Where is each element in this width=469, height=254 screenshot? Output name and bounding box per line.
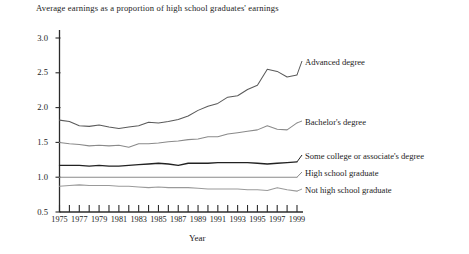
y-tick-label: 2.5 xyxy=(22,67,48,77)
leader-line-3 xyxy=(297,172,302,177)
series-line-1 xyxy=(60,123,298,147)
series-label-2: Some college or associate's degree xyxy=(305,151,424,161)
leader-line-1 xyxy=(297,121,302,123)
series-line-4 xyxy=(60,185,298,191)
x-axis-caption: Year xyxy=(189,233,206,243)
y-tick-label: 1.5 xyxy=(22,137,48,147)
y-tick-label: 1.0 xyxy=(22,172,48,182)
y-tick-label: 2.0 xyxy=(22,102,48,112)
chart-figure: Average earnings as a proportion of high… xyxy=(0,0,469,254)
y-tick-label: 3.0 xyxy=(22,33,48,43)
series-label-1: Bachelor's degree xyxy=(305,117,366,127)
x-tick-label: 1999 xyxy=(282,215,312,224)
series-label-3: High school graduate xyxy=(305,168,379,178)
leader-line-2 xyxy=(297,155,302,162)
series-line-0 xyxy=(60,69,298,128)
leader-line-0 xyxy=(297,61,302,75)
series-label-0: Advanced degree xyxy=(305,57,365,67)
data-series-group xyxy=(60,69,298,191)
axes xyxy=(56,30,304,212)
series-label-4: Not high school graduate xyxy=(305,185,392,195)
leader-line-4 xyxy=(297,189,302,191)
series-line-2 xyxy=(60,162,298,166)
label-leader-lines xyxy=(297,61,302,191)
